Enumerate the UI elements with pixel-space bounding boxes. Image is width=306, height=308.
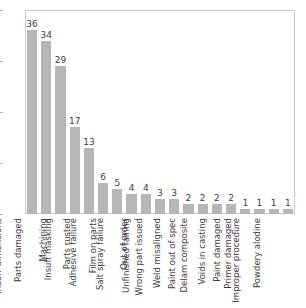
pareto-bar-chart: 010203040 363429171365443322221111 Incor… [0,0,306,308]
bars-layer: 363429171365443322221111 [25,10,295,214]
x-axis-category-label: Salt spray failure [96,218,105,290]
y-axis-tick-mark [0,112,3,113]
bar-group[interactable]: 13 [84,10,94,214]
bar-group[interactable]: 4 [126,10,136,214]
bar-value-label: 13 [83,137,94,147]
y-axis: 010203040 [0,0,25,215]
bar-value-label: 1 [285,198,291,208]
x-axis-label-slot: Improper procedure [267,216,281,308]
y-axis-tick-mark [0,163,3,164]
bar-value-label: 3 [171,188,177,198]
bar[interactable] [112,189,122,215]
bar[interactable] [212,204,222,214]
bar-value-label: 2 [228,193,234,203]
bar-group[interactable]: 17 [70,10,80,214]
bar[interactable] [254,209,264,214]
bar-value-label: 1 [271,198,277,208]
bar[interactable] [183,204,193,214]
bar-value-label: 36 [26,19,37,29]
bar[interactable] [55,66,65,214]
y-axis-tick-mark [0,214,3,215]
bar-group[interactable]: 36 [27,10,37,214]
bar[interactable] [198,204,208,214]
bar-value-label: 29 [55,55,66,65]
bar[interactable] [41,41,51,214]
bar-group[interactable]: 1 [283,10,293,214]
x-axis-category-label: Powdery alodine [253,218,262,288]
bar-value-label: 2 [200,193,206,203]
bar[interactable] [27,30,37,214]
bar[interactable] [269,209,279,214]
bar-value-label: 1 [242,198,248,208]
bar[interactable] [98,183,108,214]
bar[interactable] [283,209,293,214]
bar-group[interactable]: 1 [240,10,250,214]
bar-group[interactable]: 1 [269,10,279,214]
x-axis-category-label: Parts damaged [14,218,23,282]
x-axis-category-label: Insuff masking [44,218,53,280]
bar[interactable] [70,127,80,214]
x-axis-category-label: Paint damaged [213,218,222,282]
bar[interactable] [141,194,151,214]
bar-value-label: 34 [41,30,52,40]
bar-value-label: 17 [69,116,80,126]
x-axis-category-label: Voids in casting [198,218,207,284]
bar[interactable] [240,209,250,214]
bar-value-label: 2 [186,193,192,203]
bar-group[interactable]: 6 [98,10,108,214]
bar-value-label: 5 [114,178,120,188]
bar-group[interactable]: 2 [183,10,193,214]
x-axis-labels: Incorr dimensionsParts damagedMachiningI… [25,216,295,308]
bar[interactable] [84,148,94,214]
bar-group[interactable]: 2 [226,10,236,214]
bar-group[interactable]: 29 [55,10,65,214]
bar[interactable] [226,204,236,214]
x-axis-category-label: Delam composite [180,218,189,292]
x-axis-category-label: Incorr dimensions [0,218,3,294]
x-axis-category-label: Unfinished fairing [122,218,131,293]
x-axis-category-label: Wrong part issued [135,218,144,295]
x-axis-label-slot: Incorr dimensions [25,216,39,308]
bar-value-label: 1 [257,198,263,208]
bar-value-label: 6 [100,172,106,182]
y-axis-tick-mark [0,61,3,62]
bar-group[interactable]: 3 [155,10,165,214]
bar-value-label: 2 [214,193,220,203]
x-axis-category-label: Adhesive failure [69,218,78,286]
bar-group[interactable]: 3 [169,10,179,214]
x-axis-category-label: Weld misaligned [153,218,162,288]
bar-group[interactable]: 34 [41,10,51,214]
x-axis-label-slot: Powdery alodine [281,216,295,308]
bar-group[interactable]: 2 [212,10,222,214]
bar-group[interactable]: 4 [141,10,151,214]
bar[interactable] [169,199,179,214]
bar-group[interactable]: 1 [254,10,264,214]
bar-group[interactable]: 2 [198,10,208,214]
bar[interactable] [126,194,136,214]
bar-group[interactable]: 5 [112,10,122,214]
x-axis-category-label: Paint out of spec [167,218,176,289]
bar-value-label: 3 [157,188,163,198]
y-axis-tick-mark [0,10,3,11]
bar-value-label: 4 [143,183,149,193]
bar-value-label: 4 [129,183,135,193]
bar[interactable] [155,199,165,214]
x-axis-category-label: Improper procedure [231,218,240,303]
